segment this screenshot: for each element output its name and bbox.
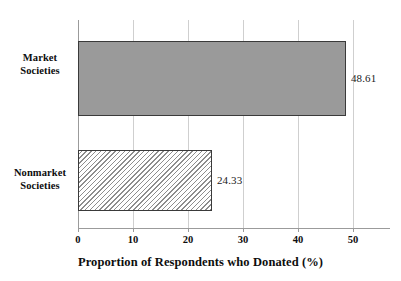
tick-label-20: 20 — [175, 234, 201, 245]
tick-label-50: 50 — [340, 234, 366, 245]
tick-label-10: 10 — [120, 234, 146, 245]
bar-value-nonmarket-societies: 24.33 — [217, 174, 242, 186]
category-label-market-societies: Market Societies — [4, 52, 76, 77]
tick-mark-40 — [298, 228, 299, 232]
tick-mark-0 — [78, 228, 79, 232]
category-label-market-societies-line2: Societies — [4, 65, 76, 78]
tick-label-0: 0 — [65, 234, 91, 245]
tick-mark-20 — [188, 228, 189, 232]
bar-value-market-societies: 48.61 — [351, 72, 376, 84]
bar-market-societies[interactable] — [78, 41, 346, 116]
category-label-nonmarket-societies: Nonmarket Societies — [4, 167, 76, 192]
tick-label-30: 30 — [230, 234, 256, 245]
category-label-nonmarket-societies-line1: Nonmarket — [4, 167, 76, 180]
gridline-50 — [353, 20, 354, 228]
x-axis-line — [78, 228, 390, 229]
tick-mark-30 — [243, 228, 244, 232]
category-label-market-societies-line1: Market — [4, 52, 76, 65]
bar-nonmarket-societies[interactable] — [78, 150, 212, 211]
tick-mark-50 — [353, 228, 354, 232]
tick-mark-10 — [133, 228, 134, 232]
x-axis-title: Proportion of Respondents who Donated (%… — [0, 255, 401, 270]
category-label-nonmarket-societies-line2: Societies — [4, 180, 76, 193]
bar-chart: 48.61 Market Societies 24.33 Nonmarket S… — [0, 0, 401, 281]
tick-label-40: 40 — [285, 234, 311, 245]
